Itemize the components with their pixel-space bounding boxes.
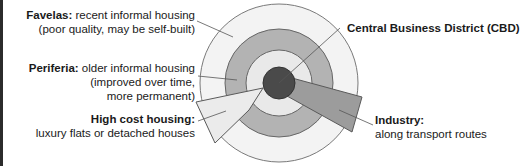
favelas-desc-2: (poor quality, may be self-built) — [26, 22, 195, 36]
high-cost-housing-label: High cost housing: luxury flats or detac… — [36, 112, 195, 140]
highcost-title: High cost housing: — [91, 113, 195, 125]
industry-desc-1: along transport routes — [375, 127, 487, 141]
favelas-title: Favelas: — [26, 9, 72, 21]
periferia-desc-3: more permanent) — [29, 89, 195, 103]
periferia-desc-2: (improved over time, — [29, 75, 195, 89]
industry-title: Industry: — [375, 114, 424, 126]
periferia-title: Periferia: — [29, 62, 79, 74]
industry-label: Industry: along transport routes — [375, 113, 487, 141]
favelas-desc-1: recent informal housing — [72, 9, 195, 21]
highcost-desc-1: luxury flats or detached houses — [36, 126, 195, 140]
cbd-title: Central Business District (CBD) — [347, 22, 520, 34]
periferia-label: Periferia: older informal housing (impro… — [29, 61, 195, 103]
favelas-label: Favelas: recent informal housing (poor q… — [26, 8, 195, 36]
cbd-label: Central Business District (CBD) — [347, 21, 520, 35]
periferia-desc-1: older informal housing — [79, 62, 195, 74]
